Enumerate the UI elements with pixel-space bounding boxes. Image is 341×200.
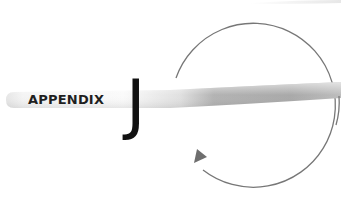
appendix-letter: J (126, 72, 145, 138)
top-streak (250, 0, 341, 4)
arrowhead-icon (194, 149, 207, 163)
appendix-label: APPENDIX (28, 92, 104, 107)
